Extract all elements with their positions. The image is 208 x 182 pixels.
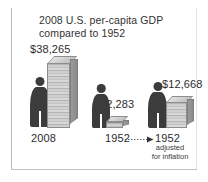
person-leg-gap (100, 114, 102, 128)
chart-figure: 2008 U.S. per-capita GDP compared to 195… (0, 0, 208, 182)
dotted-arrow-right-icon (125, 136, 155, 143)
money-stack-front-face (166, 102, 187, 128)
money-stack-icon-1952-adjusted (166, 96, 196, 128)
money-stack-front-face (106, 122, 123, 128)
person-silhouette-icon (148, 82, 167, 128)
value-label-1952-adjusted: $12,668 (162, 78, 202, 90)
person-head (153, 82, 162, 91)
money-stack-side-face (187, 99, 194, 125)
frame-border-bottom (11, 169, 197, 170)
chart-title-line-2: compared to 1952 (39, 27, 174, 40)
category-label-2008: 2008 (31, 132, 56, 144)
person-head (97, 84, 106, 93)
chart-title-line-1: 2008 U.S. per-capita GDP (39, 14, 174, 27)
money-stack-front-face (47, 63, 70, 128)
money-stack-icon-1952 (106, 113, 130, 128)
frame-border-left (11, 8, 12, 170)
category-sublabel-line-2: for inflation (143, 152, 197, 161)
person-head (36, 77, 45, 86)
chart-title: 2008 U.S. per-capita GDP compared to 195… (39, 14, 174, 39)
person-leg-gap (157, 113, 159, 128)
person-leg-gap (39, 111, 41, 127)
money-stack-side-face (123, 120, 129, 126)
category-sublabel-line-1: adjusted (143, 143, 197, 152)
category-sublabel-1952-adjusted: adjusted for inflation (143, 143, 197, 161)
money-stack-icon-2008 (47, 56, 80, 128)
money-stack-side-face (70, 59, 78, 124)
value-label-2008: $38,265 (30, 43, 70, 55)
